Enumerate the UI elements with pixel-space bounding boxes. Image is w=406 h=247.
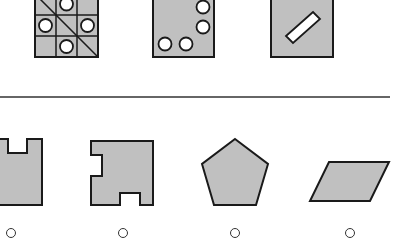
option-b-radio[interactable] bbox=[118, 228, 128, 238]
option-a-shape bbox=[0, 139, 42, 205]
figure-grid-with-circles bbox=[35, 0, 98, 57]
option-d-shape bbox=[310, 162, 389, 201]
figure-rectangle-with-bar bbox=[271, 0, 333, 57]
option-d-radio[interactable] bbox=[345, 228, 355, 238]
option-c-shape bbox=[202, 139, 268, 205]
option-a-radio[interactable] bbox=[6, 228, 16, 238]
puzzle-canvas bbox=[0, 0, 406, 247]
option-b-shape bbox=[91, 141, 153, 205]
figure-rectangle-with-circles bbox=[153, 0, 214, 57]
option-c-radio[interactable] bbox=[230, 228, 240, 238]
